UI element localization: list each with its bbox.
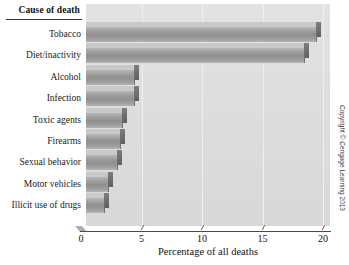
bar-diet-inactivity bbox=[86, 48, 309, 63]
bar-tobacco bbox=[86, 27, 321, 42]
category-label: Illicit use of drugs bbox=[0, 200, 81, 210]
copyright-text: Copyright © Cengage Learning 2013 bbox=[339, 105, 346, 211]
category-label: Diet/inactivity bbox=[0, 50, 81, 60]
bar-infection bbox=[86, 91, 139, 106]
x-tick-label-15: 15 bbox=[248, 233, 278, 244]
x-tick-label-10: 10 bbox=[187, 233, 217, 244]
bar-front-face bbox=[86, 113, 123, 128]
bar-front-face bbox=[86, 155, 118, 170]
bar-sexual-behavior bbox=[86, 155, 122, 170]
x-axis-line bbox=[80, 231, 331, 232]
category-header-rule bbox=[6, 19, 82, 20]
bar-front-face bbox=[86, 91, 135, 106]
bar-chart: Cause of death TobaccoDiet/inactivityAlc… bbox=[0, 0, 349, 265]
bar-front-face bbox=[86, 134, 121, 149]
x-tick-label-5: 5 bbox=[127, 233, 157, 244]
bar-alcohol bbox=[86, 70, 139, 85]
category-label: Alcohol bbox=[0, 72, 81, 82]
gridline-20 bbox=[323, 4, 324, 226]
category-label: Tobacco bbox=[0, 29, 81, 39]
bar-front-face bbox=[86, 70, 135, 85]
bar-toxic-agents bbox=[86, 113, 127, 128]
bar-firearms bbox=[86, 134, 125, 149]
bar-front-face bbox=[86, 27, 317, 42]
category-label: Firearms bbox=[0, 136, 81, 146]
x-tick-label-0: 0 bbox=[66, 233, 96, 244]
category-axis-header: Cause of death bbox=[0, 5, 80, 15]
x-axis-title: Percentage of all deaths bbox=[86, 246, 330, 257]
bar-front-face bbox=[86, 198, 105, 213]
bar-illicit-use-of-drugs bbox=[86, 198, 109, 213]
bar-front-face bbox=[86, 48, 305, 63]
bar-front-face bbox=[86, 177, 109, 192]
category-label: Motor vehicles bbox=[0, 179, 81, 189]
category-label: Toxic agents bbox=[0, 115, 81, 125]
category-label: Sexual behavior bbox=[0, 157, 81, 167]
x-tick-label-20: 20 bbox=[308, 233, 338, 244]
category-label: Infection bbox=[0, 93, 81, 103]
bar-motor-vehicles bbox=[86, 177, 113, 192]
copyright-notice: Copyright © Cengage Learning 2013 bbox=[337, 105, 347, 225]
